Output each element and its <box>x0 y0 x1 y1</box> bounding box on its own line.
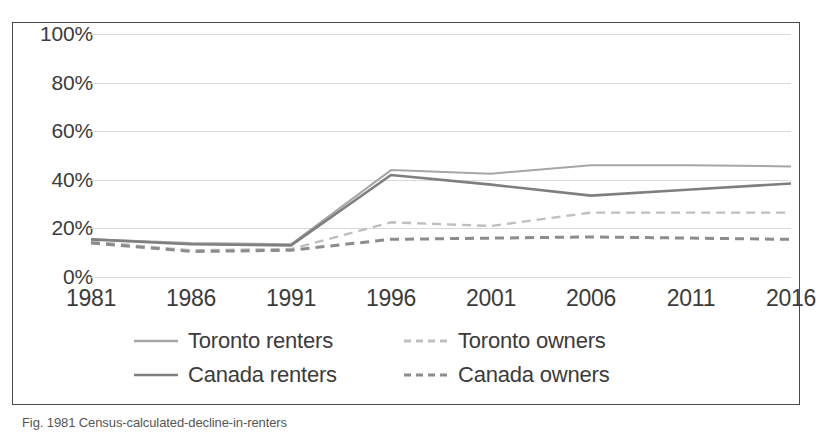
chart-frame: 0%20%40%60%80%100% 198119861991199620012… <box>12 22 800 405</box>
legend-canada-owners[interactable]: Canada owners <box>403 362 673 388</box>
series-line-canada-renters <box>91 175 791 245</box>
series-line-toronto-renters <box>91 165 791 244</box>
x-axis-tick-label: 2016 <box>766 285 816 312</box>
legend-swatch-icon <box>133 368 179 382</box>
x-axis-tick-label: 1991 <box>266 285 316 312</box>
y-axis-tick-label: 80% <box>0 71 93 95</box>
chart-legend: Toronto rentersToronto ownersCanada rent… <box>133 328 693 388</box>
y-axis-tick-label: 60% <box>0 119 93 143</box>
legend-canada-renters[interactable]: Canada renters <box>133 362 403 388</box>
x-axis-tick-label: 2011 <box>667 285 715 312</box>
y-axis-tick-label: 40% <box>0 168 93 192</box>
figure-caption: Fig. 1981 Census-calculated-decline-in-r… <box>22 415 287 430</box>
legend-label: Canada owners <box>458 362 610 388</box>
x-axis-tick-label: 1986 <box>166 285 216 312</box>
legend-label: Canada renters <box>188 362 337 388</box>
x-axis-tick-label: 2001 <box>466 285 516 312</box>
legend-label: Toronto owners <box>458 328 606 354</box>
y-axis-tick-label: 100% <box>0 22 93 46</box>
x-axis-labels: 19811986199119962001200620112016 <box>91 285 791 321</box>
x-axis-tick-label: 2006 <box>566 285 616 312</box>
x-axis-tick-label: 1981 <box>66 285 116 312</box>
legend-label: Toronto renters <box>188 328 333 354</box>
series-lines <box>91 34 791 277</box>
legend-toronto-owners[interactable]: Toronto owners <box>403 328 673 354</box>
legend-toronto-renters[interactable]: Toronto renters <box>133 328 403 354</box>
plot-area <box>91 34 791 277</box>
x-axis-tick-label: 1996 <box>366 285 416 312</box>
gridline <box>91 277 791 278</box>
legend-swatch-icon <box>403 334 449 348</box>
legend-swatch-icon <box>403 368 449 382</box>
legend-swatch-icon <box>133 334 179 348</box>
y-axis-tick-label: 20% <box>0 216 93 240</box>
